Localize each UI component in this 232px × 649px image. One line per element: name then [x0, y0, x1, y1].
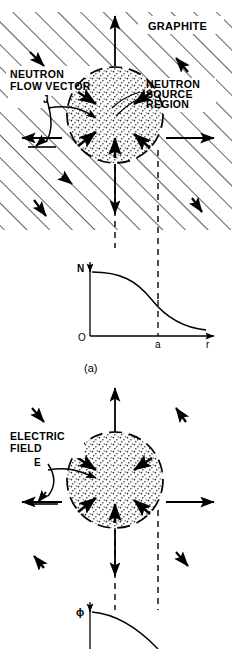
field-tip-arrow: [38, 492, 46, 502]
source-region-label-line3: REGION: [146, 98, 189, 110]
graph-b-y-label: ϕ: [76, 606, 85, 618]
panel-a-caption: (a): [84, 362, 97, 374]
flow-vector-symbol: J: [43, 94, 49, 105]
graph-a-radius-tick-label: a: [155, 339, 161, 350]
graph-a-x-label: r: [206, 339, 210, 350]
figure-panel-b: ELECTRIC FIELD E ϕ: [0, 380, 232, 649]
graph-b-curve: [92, 612, 158, 649]
panel-a-graph: N O a r: [77, 262, 214, 350]
electric-field-label-line1: ELECTRIC: [10, 430, 65, 442]
graph-a-y-label: N: [77, 263, 85, 274]
electric-field-label-line2: FIELD: [10, 442, 42, 454]
flow-vector-label-line2: FLOW VECTOR: [10, 80, 91, 92]
electric-field-symbol: E: [34, 457, 41, 468]
graph-a-curve: [92, 272, 206, 330]
graph-a-origin-label: O: [78, 332, 86, 343]
panel-b-graph: ϕ: [76, 602, 158, 649]
panel-b-drawing: ELECTRIC FIELD E ϕ: [0, 380, 232, 649]
flow-vector-label-line1: NEUTRON: [10, 68, 64, 80]
graphite-label: GRAPHITE: [148, 20, 207, 32]
figure-panel-a: GRAPHITE NEUTRON FLOW VECTOR J NEUTRON S…: [0, 0, 232, 380]
panel-a-drawing: GRAPHITE NEUTRON FLOW VECTOR J NEUTRON S…: [0, 0, 232, 380]
flow-symbol-backing: [8, 94, 46, 108]
